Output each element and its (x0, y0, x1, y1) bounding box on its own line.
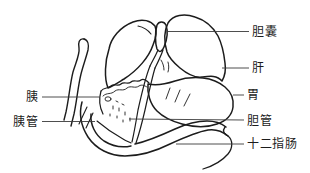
pancreas-texture (110, 101, 130, 122)
anatomy-illustration: 胆囊 肝 胃 胆管 十二指肠 胰 胰管 (0, 0, 310, 173)
duodenum-outline (81, 102, 232, 169)
liver-left-lobe-outline (105, 20, 156, 88)
leader-lines (42, 32, 249, 145)
label-pancreas: 胰 (26, 90, 39, 104)
liver-right-lobe-outline (161, 15, 225, 81)
labels: 胆囊 肝 胃 胆管 十二指肠 胰 胰管 (13, 24, 297, 151)
label-pancreatic-duct: 胰管 (13, 114, 38, 129)
anatomy-figure: 胆囊 肝 胃 胆管 十二指肠 胰 胰管 (0, 0, 310, 173)
label-bile-duct: 胆管 (247, 113, 272, 128)
line-drawing (64, 15, 233, 169)
label-liver: 肝 (252, 61, 265, 75)
label-gallbladder: 胆囊 (252, 24, 277, 39)
stomach-hatching (166, 88, 190, 106)
label-stomach: 胃 (247, 88, 260, 102)
label-duodenum: 十二指肠 (247, 136, 297, 151)
omental-fold-outline (64, 39, 93, 128)
